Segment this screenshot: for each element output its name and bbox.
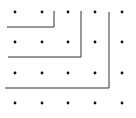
gnomon-line-3 [5,12,109,88]
grid-dot [14,41,17,44]
grid-dot [41,102,44,105]
grid-dot [121,102,124,105]
gnomon-line-2 [8,11,81,57]
grid-dot [94,72,97,75]
grid-dot [94,102,97,105]
grid-dot [67,11,70,14]
grid-dot [94,41,97,44]
grid-dot [67,72,70,75]
grid-dot [41,41,44,44]
grid-dot [67,102,70,105]
grid-dot [41,72,44,75]
gnomon-lines [5,11,109,88]
dot-grid-diagram [0,0,136,118]
gnomon-line-1 [7,11,54,27]
grid-dot [121,72,124,75]
grid-dot [67,41,70,44]
grid-dot [94,11,97,14]
diagram-svg [0,0,136,118]
grid-dot [41,11,44,14]
grid-dot [121,41,124,44]
grid-dot [14,11,17,14]
grid-dot [14,72,17,75]
grid-dot [121,11,124,14]
grid-dot [14,102,17,105]
